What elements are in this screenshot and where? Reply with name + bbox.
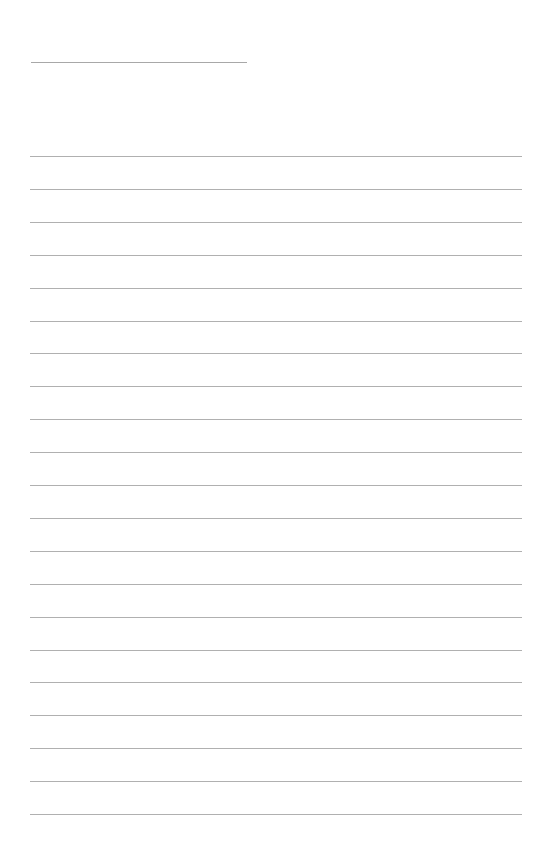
ruled-line: [30, 781, 522, 782]
ruled-line: [30, 288, 522, 289]
ruled-line: [30, 452, 522, 453]
ruled-line: [30, 814, 522, 815]
ruled-line: [30, 189, 522, 190]
ruled-line: [30, 518, 522, 519]
ruled-line: [30, 419, 522, 420]
ruled-line: [30, 255, 522, 256]
ruled-line: [30, 222, 522, 223]
ruled-line: [30, 353, 522, 354]
ruled-line: [30, 551, 522, 552]
ruled-line: [30, 748, 522, 749]
lined-paper-page: [0, 0, 534, 860]
title-line: [31, 62, 247, 63]
ruled-line: [30, 650, 522, 651]
ruled-line: [30, 617, 522, 618]
ruled-line: [30, 584, 522, 585]
ruled-line: [30, 386, 522, 387]
ruled-line: [30, 485, 522, 486]
ruled-line: [30, 321, 522, 322]
ruled-line: [30, 156, 522, 157]
ruled-line: [30, 682, 522, 683]
ruled-line: [30, 715, 522, 716]
